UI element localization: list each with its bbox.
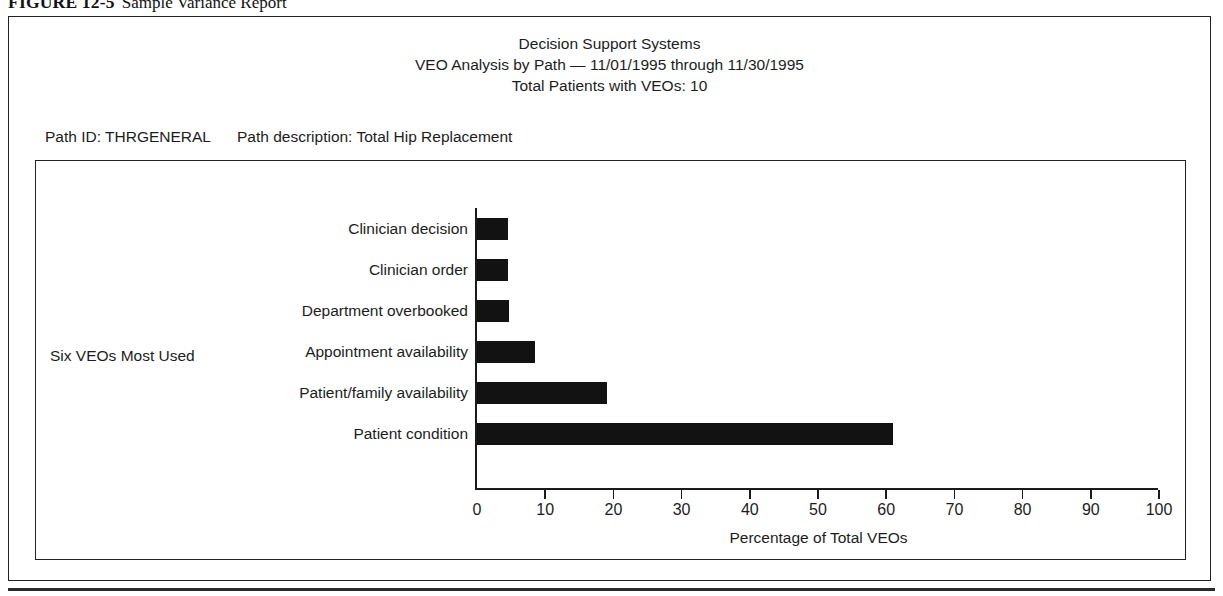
- bar-category-label: Clinician decision: [348, 220, 468, 238]
- x-axis-tick-label: 60: [877, 501, 895, 519]
- bar: [477, 218, 508, 240]
- x-axis-tick: [1158, 490, 1160, 499]
- bar-category-label: Appointment availability: [305, 343, 468, 361]
- x-axis-tick: [885, 490, 887, 499]
- x-axis-tick-label: 100: [1146, 501, 1173, 519]
- bar-row: Patient condition: [36, 413, 1185, 454]
- figure-caption-text: Sample Variance Report: [122, 0, 287, 12]
- bar: [477, 259, 508, 281]
- x-axis-tick-label: 10: [536, 501, 554, 519]
- figure-caption: FIGURE 12-5Sample Variance Report: [8, 0, 287, 13]
- report-title-line-3: Total Patients with VEOs: 10: [9, 75, 1210, 96]
- bar-category-label: Department overbooked: [302, 302, 468, 320]
- bar-row: Patient/family availability: [36, 372, 1185, 413]
- bar: [477, 300, 509, 322]
- path-info-line: Path ID: THRGENERALPath description: Tot…: [45, 127, 512, 147]
- x-axis-tick: [544, 490, 546, 499]
- bar: [477, 423, 893, 445]
- x-axis-tick-label: 40: [741, 501, 759, 519]
- bar-row: Department overbooked: [36, 290, 1185, 331]
- bar-row: Clinician order: [36, 249, 1185, 290]
- report-title-block: Decision Support Systems VEO Analysis by…: [9, 33, 1210, 96]
- bar-chart-plot: Six VEOs Most Used Clinician decisionCli…: [36, 161, 1185, 559]
- x-axis-tick: [954, 490, 956, 499]
- page-bottom-rule: [8, 588, 1215, 591]
- bar-category-label: Clinician order: [369, 261, 468, 279]
- report-frame: Decision Support Systems VEO Analysis by…: [8, 16, 1211, 581]
- bar-category-label: Patient/family availability: [299, 384, 468, 402]
- bar-row: Clinician decision: [36, 208, 1185, 249]
- x-axis-tick: [1022, 490, 1024, 499]
- x-axis-tick-label: 0: [473, 501, 482, 519]
- x-axis-tick-label: 90: [1082, 501, 1100, 519]
- x-axis-tick-label: 20: [604, 501, 622, 519]
- chart-panel: Six VEOs Most Used Clinician decisionCli…: [35, 160, 1186, 560]
- x-axis-tick: [817, 490, 819, 499]
- x-axis-tick-label: 70: [945, 501, 963, 519]
- x-axis-tick: [749, 490, 751, 499]
- x-axis-tick-label: 80: [1014, 501, 1032, 519]
- figure-number: FIGURE 12-5: [8, 0, 115, 12]
- y-axis-line: [475, 208, 477, 489]
- x-axis-tick-label: 50: [809, 501, 827, 519]
- bar: [477, 382, 607, 404]
- path-id: Path ID: THRGENERAL: [45, 128, 211, 145]
- report-title-line-2: VEO Analysis by Path — 11/01/1995 throug…: [9, 54, 1210, 75]
- bar-row: Appointment availability: [36, 331, 1185, 372]
- x-axis-tick: [681, 490, 683, 499]
- x-axis-tick: [613, 490, 615, 499]
- path-description: Path description: Total Hip Replacement: [237, 128, 512, 145]
- x-axis-title: Percentage of Total VEOs: [477, 529, 1160, 547]
- x-axis-tick: [1090, 490, 1092, 499]
- x-axis-tick-label: 30: [673, 501, 691, 519]
- bar-category-label: Patient condition: [353, 425, 468, 443]
- report-title-line-1: Decision Support Systems: [9, 33, 1210, 54]
- bar: [477, 341, 535, 363]
